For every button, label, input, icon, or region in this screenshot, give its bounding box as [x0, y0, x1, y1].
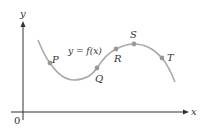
x-axis-arrow-icon [183, 110, 189, 115]
point-p-label: P [51, 54, 59, 65]
point-r-label: R [113, 53, 122, 64]
x-axis-label: x [191, 106, 197, 117]
point-s-label: S [130, 29, 137, 40]
origin-label: 0 [14, 115, 20, 126]
y-axis-label: y [19, 8, 26, 19]
curve-equation-label: y = f(x) [67, 46, 102, 56]
point-r-marker [114, 47, 119, 52]
point-q-label: Q [95, 73, 103, 84]
point-t-marker [160, 56, 165, 61]
point-t-label: T [167, 52, 175, 63]
function-graph: y x 0 y = f(x) P Q R S T [0, 0, 200, 128]
point-q-marker [95, 66, 100, 71]
y-axis-arrow-icon [21, 21, 26, 27]
point-s-marker [132, 42, 137, 47]
